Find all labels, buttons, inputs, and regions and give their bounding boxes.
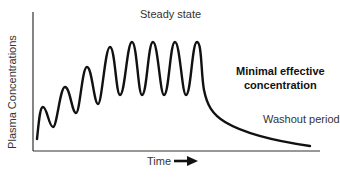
time-label: Time	[147, 155, 171, 167]
concentration-curve	[37, 42, 310, 146]
mec-line-2: concentration	[236, 78, 325, 92]
steady-state-label: Steady state	[140, 8, 201, 20]
right-arrow-icon	[174, 156, 198, 166]
x-axis-label: Time	[147, 155, 198, 167]
minimal-effective-concentration-label: Minimal effective concentration	[236, 64, 325, 92]
y-axis-label: Plasma Concentrations	[6, 22, 18, 162]
washout-period-label: Washout period	[263, 113, 340, 125]
mec-line-1: Minimal effective	[236, 64, 325, 78]
